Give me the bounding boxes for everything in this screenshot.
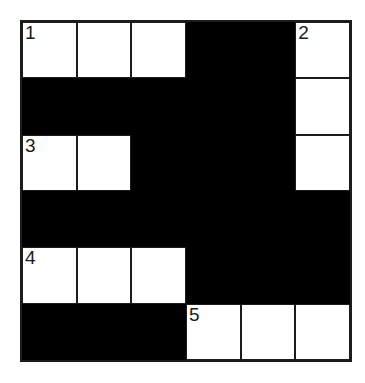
block-cell: [186, 191, 241, 247]
answer-cell[interactable]: [241, 304, 296, 360]
block-cell: [131, 78, 186, 134]
answer-cell[interactable]: [295, 304, 350, 360]
block-cell: [241, 247, 296, 303]
clue-number: 2: [298, 23, 309, 43]
block-cell: [131, 304, 186, 360]
block-cell: [22, 304, 77, 360]
block-cell: [186, 135, 241, 191]
block-cell: [77, 78, 132, 134]
answer-cell[interactable]: [295, 78, 350, 134]
clue-number: 5: [189, 305, 200, 325]
block-cell: [22, 191, 77, 247]
clue-number: 4: [25, 248, 36, 268]
answer-cell[interactable]: 4: [22, 247, 77, 303]
page: 12345: [0, 0, 365, 383]
block-cell: [241, 191, 296, 247]
block-cell: [131, 191, 186, 247]
clue-number: 3: [25, 136, 36, 156]
answer-cell[interactable]: [131, 22, 186, 78]
answer-cell[interactable]: 3: [22, 135, 77, 191]
answer-cell[interactable]: 5: [186, 304, 241, 360]
block-cell: [131, 135, 186, 191]
block-cell: [241, 22, 296, 78]
block-cell: [186, 78, 241, 134]
answer-cell[interactable]: [131, 247, 186, 303]
block-cell: [186, 247, 241, 303]
answer-cell[interactable]: [295, 135, 350, 191]
block-cell: [77, 191, 132, 247]
answer-cell[interactable]: 1: [22, 22, 77, 78]
block-cell: [22, 78, 77, 134]
block-cell: [295, 247, 350, 303]
answer-cell[interactable]: 2: [295, 22, 350, 78]
block-cell: [77, 304, 132, 360]
answer-cell[interactable]: [77, 135, 132, 191]
block-cell: [241, 135, 296, 191]
block-cell: [295, 191, 350, 247]
block-cell: [186, 22, 241, 78]
crossword-grid: 12345: [20, 20, 352, 362]
answer-cell[interactable]: [77, 247, 132, 303]
block-cell: [241, 78, 296, 134]
clue-number: 1: [25, 23, 36, 43]
answer-cell[interactable]: [77, 22, 132, 78]
